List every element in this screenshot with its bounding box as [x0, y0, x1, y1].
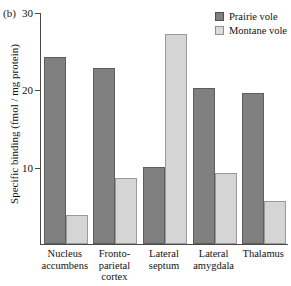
- y-axis-label: Specific binding (fmol / mg protein): [8, 17, 20, 232]
- category-label: Fronto-parietalcortex: [90, 248, 140, 283]
- y-tick-mark: [35, 13, 40, 14]
- bar-group: [143, 13, 187, 244]
- category-label-line: Lateral: [139, 248, 189, 260]
- bar-group: [93, 13, 137, 244]
- bar-prairie-vole: [193, 88, 215, 244]
- category-label-line: Fronto-: [90, 248, 140, 260]
- y-tick-mark: [35, 168, 40, 169]
- bar-group: [44, 13, 88, 244]
- legend-label: Prairie vole: [229, 10, 278, 23]
- bar-montane-vole: [215, 173, 237, 244]
- figure-panel-b: (b) Specific binding (fmol / mg protein)…: [0, 0, 291, 286]
- bar-prairie-vole: [93, 68, 115, 244]
- bar-montane-vole: [66, 215, 88, 244]
- legend-swatch-icon: [215, 12, 224, 21]
- category-label: Nucleusaccumbens: [40, 248, 90, 271]
- category-label: Lateralamygdala: [189, 248, 239, 271]
- legend-swatch-icon: [215, 26, 224, 35]
- category-label-line: Lateral: [189, 248, 239, 260]
- bar-prairie-vole: [242, 93, 264, 244]
- category-label-line: amygdala: [189, 260, 239, 272]
- bar-montane-vole: [264, 201, 286, 244]
- y-tick-label: 30: [22, 7, 33, 19]
- category-label-line: accumbens: [40, 260, 90, 272]
- category-label-line: cortex: [90, 271, 140, 283]
- bar-prairie-vole: [143, 167, 165, 244]
- x-axis-category-labels: NucleusaccumbensFronto-parietalcortexLat…: [40, 248, 290, 286]
- bar-prairie-vole: [44, 57, 66, 244]
- bar-group: [193, 13, 237, 244]
- bar-series-container: [41, 13, 288, 244]
- category-label-line: Nucleus: [40, 248, 90, 260]
- category-label: Thalamus: [238, 248, 288, 260]
- legend-item: Prairie vole: [215, 10, 287, 23]
- bar-group: [242, 13, 286, 244]
- legend-item: Montane vole: [215, 24, 287, 37]
- bar-montane-vole: [165, 34, 187, 244]
- category-label-line: parietal: [90, 260, 140, 272]
- category-label: Lateralseptum: [139, 248, 189, 271]
- category-label-line: Thalamus: [238, 248, 288, 260]
- y-tick-label: 20: [22, 84, 33, 96]
- category-label-line: septum: [139, 260, 189, 272]
- bar-montane-vole: [115, 178, 137, 244]
- legend-label: Montane vole: [229, 24, 287, 37]
- y-tick-mark: [35, 90, 40, 91]
- y-tick-label: 10: [22, 162, 33, 174]
- chart-legend: Prairie voleMontane vole: [215, 10, 287, 38]
- plot-area: 102030: [40, 13, 288, 245]
- x-axis-line: [40, 244, 288, 245]
